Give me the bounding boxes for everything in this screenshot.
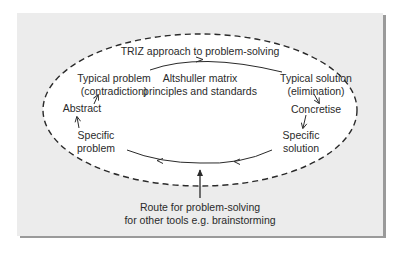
route-note: Route for problem-solving for other tool…: [124, 201, 275, 227]
route-note-line2: for other tools e.g. brainstorming: [124, 214, 275, 227]
node-specific-solution-line1: Specific: [283, 129, 320, 142]
node-typical-problem-line1: Typical problem: [77, 72, 151, 85]
node-altshuller-line1: Altshuller matrix: [143, 72, 257, 85]
diagram-title: TRIZ approach to problem-solving: [121, 45, 280, 58]
node-concretise: Concretise: [291, 103, 341, 116]
node-specific-problem-line1: Specific: [77, 129, 115, 142]
node-specific-solution-line2: solution: [283, 142, 320, 155]
diagram-canvas: TRIZ approach to problem-solving Typical…: [0, 0, 404, 258]
node-specific-problem: Specific problem: [77, 129, 115, 155]
node-typical-solution: Typical solution (elimination): [280, 72, 352, 98]
node-typical-problem: Typical problem (contradiction): [77, 72, 151, 98]
node-abstract: Abstract: [63, 102, 102, 115]
node-typical-solution-line2: (elimination): [280, 85, 352, 98]
route-note-line1: Route for problem-solving: [124, 201, 275, 214]
node-specific-problem-line2: problem: [77, 142, 115, 155]
node-typical-problem-line2: (contradiction): [77, 85, 151, 98]
node-altshuller-line2: principles and standards: [143, 85, 257, 98]
node-altshuller-matrix: Altshuller matrix principles and standar…: [143, 72, 257, 98]
node-specific-solution: Specific solution: [283, 129, 320, 155]
node-typical-solution-line1: Typical solution: [280, 72, 352, 85]
